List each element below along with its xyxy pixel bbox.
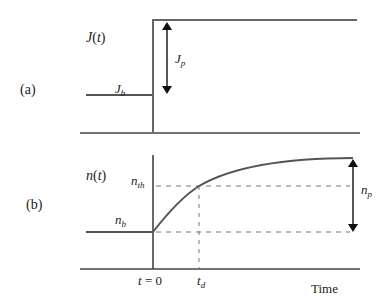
- current-pulse-trace: [153, 20, 357, 133]
- panel-a-tag: (a): [20, 82, 36, 98]
- panel-b-tag: (b): [26, 197, 43, 213]
- nb-label: nb: [115, 212, 127, 229]
- panel-b-ylabel: n(t): [86, 168, 107, 184]
- panel-b: (b) n(t) nth nb np t = 0 td Time: [26, 155, 373, 296]
- time-axis-label: Time: [311, 281, 338, 296]
- jp-label: Jp: [175, 51, 186, 68]
- current-baseline-trace: [86, 95, 153, 133]
- t0-label: t = 0: [138, 273, 162, 288]
- jb-label: Jb: [115, 81, 126, 98]
- carrier-density-trace: [86, 158, 353, 232]
- td-label: td: [197, 273, 206, 290]
- diagram-canvas: (a) J(t) Jb Jp (b) n(t) nth nb np t = 0 …: [0, 0, 390, 301]
- nth-label: nth: [131, 173, 145, 190]
- np-label: np: [361, 182, 373, 199]
- panel-a-ylabel: J(t): [86, 30, 106, 46]
- panel-a: (a) J(t) Jb Jp: [20, 20, 360, 133]
